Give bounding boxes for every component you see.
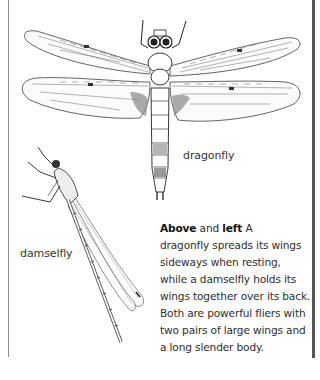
caption-line: Both are powerful fliers with (160, 305, 310, 322)
dragonfly-label: dragonfly (183, 149, 234, 162)
book-page: dragonfly damselfly Above and left A dra… (0, 0, 320, 380)
caption-line: a long slender body. (160, 339, 310, 356)
caption-line-1: Above and left A (160, 220, 310, 237)
damselfly-illustration-icon (22, 147, 144, 342)
caption-bold-above: Above (160, 222, 196, 234)
caption-line: dragonfly spreads its wings (160, 237, 310, 254)
caption-bold-left: left (222, 222, 242, 234)
damselfly-label: damselfly (20, 247, 73, 260)
caption-line: sideways when resting, (160, 254, 310, 271)
caption-line: two pairs of large wings and (160, 322, 310, 339)
caption-line: wings together over its back. (160, 288, 310, 305)
figure-caption: Above and left A dragonfly spreads its w… (160, 220, 310, 356)
caption-line: while a damselfly holds its (160, 271, 310, 288)
